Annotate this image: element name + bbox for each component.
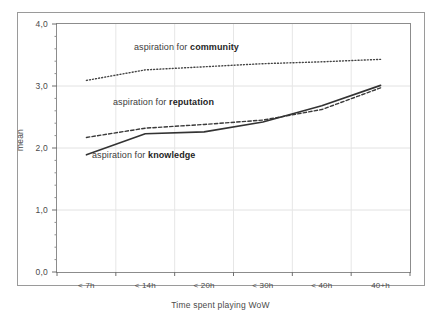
y-tick-label: 3,0 [14,81,48,91]
x-tick-label: < 30h [233,281,293,290]
y-axis-ticks [52,24,57,272]
y-tick-label: 1,0 [14,205,48,215]
x-axis-title: Time spent playing WoW [0,300,441,310]
series-label-keyword: reputation [169,97,214,107]
y-axis-title-text: mean [15,129,25,151]
x-tick-label: 40+h [351,281,411,290]
series-label-community: aspiration for community [134,42,239,52]
x-tick-label: < 20h [174,281,234,290]
x-tick-label: < 40h [292,281,352,290]
x-tick-label: < 14h [115,281,175,290]
y-tick-label: 0,0 [14,267,48,277]
x-tick-label: < 7h [56,281,116,290]
x-axis-title-text: Time spent playing WoW [171,300,269,310]
y-axis-title: mean [10,110,30,170]
chart-figure: 0,01,02,03,04,0 < 7h< 14h< 20h< 30h< 40h… [0,0,441,326]
series-label-knowledge: aspiration for knowledge [92,150,195,160]
series-label-prefix: aspiration for [134,42,190,52]
series-label-keyword: knowledge [148,150,195,160]
series-label-prefix: aspiration for [92,150,148,160]
series-label-reputation: aspiration for reputation [113,97,214,107]
y-tick-label: 4,0 [14,19,48,29]
series-label-prefix: aspiration for [113,97,169,107]
series-label-keyword: community [190,42,239,52]
x-axis-ticks [57,272,410,276]
